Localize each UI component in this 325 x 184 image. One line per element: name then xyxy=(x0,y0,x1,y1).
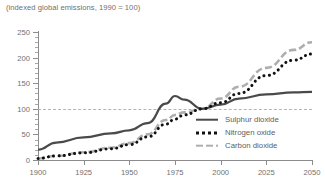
chart-legend: Sulphur dioxide Nitrogen oxide Carbon di… xyxy=(196,113,279,152)
legend-label: Nitrogen oxide xyxy=(225,128,275,137)
dotted-line-marker-icon xyxy=(196,128,218,138)
series-layer xyxy=(0,0,325,184)
legend-label: Carbon dioxide xyxy=(225,141,277,150)
legend-item-carbon-dioxide: Carbon dioxide xyxy=(196,139,279,152)
legend-label: Sulphur dioxide xyxy=(225,115,279,124)
legend-item-sulphur-dioxide: Sulphur dioxide xyxy=(196,113,279,126)
dashed-line-marker-icon xyxy=(196,141,218,151)
solid-line-marker-icon xyxy=(196,115,218,125)
emissions-line-chart: (indexed global emissions, 1990 = 100) 0… xyxy=(0,0,325,184)
legend-item-nitrogen-oxide: Nitrogen oxide xyxy=(196,126,279,139)
